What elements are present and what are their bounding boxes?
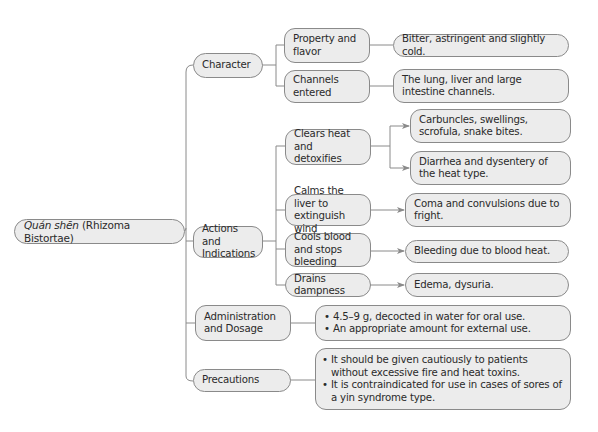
- action-clears-heat: Clears heat and detoxifies: [285, 129, 371, 165]
- branch-precautions: Precautions: [193, 369, 291, 392]
- branch-character-label: Character: [202, 59, 251, 72]
- administration-bullet: 4.5–9 g, decocted in water for oral use.: [324, 311, 531, 324]
- branch-character: Character: [193, 53, 263, 78]
- character-channels-node: Channels entered: [284, 70, 370, 103]
- property-label: Property and flavor: [293, 33, 361, 58]
- precautions-bullet: It is contraindicated for use in cases o…: [322, 379, 564, 404]
- clears-heat-label: Clears heat and detoxifies: [294, 128, 362, 166]
- precautions-bullet-list: It should be given cautiously to patient…: [322, 354, 564, 404]
- character-property-detail: Bitter, astringent and slightly cold.: [393, 34, 569, 57]
- branch-administration: Administration and Dosage: [195, 305, 291, 341]
- action-calms-liver: Calms the liver to extinguish wind: [285, 194, 371, 226]
- edema-text: Edema, dysuria.: [414, 279, 494, 292]
- indication-coma: Coma and convulsions due to fright.: [405, 193, 571, 227]
- root-node: Quán shēn (Rhizoma Bistortae): [14, 219, 185, 244]
- administration-bullet: An appropriate amount for external use.: [324, 323, 531, 336]
- cools-blood-label: Cools blood and stops bleeding: [294, 231, 362, 269]
- coma-text: Coma and convulsions due to fright.: [414, 198, 562, 223]
- diarrhea-text: Diarrhea and dysentery of the heat type.: [419, 156, 562, 181]
- calms-liver-label: Calms the liver to extinguish wind: [294, 185, 362, 235]
- precautions-detail: It should be given cautiously to patient…: [315, 348, 571, 410]
- indication-diarrhea: Diarrhea and dysentery of the heat type.: [410, 151, 571, 185]
- property-detail-text: Bitter, astringent and slightly cold.: [402, 33, 560, 58]
- branch-actions: Actions and Indications: [193, 226, 263, 258]
- precautions-bullet: It should be given cautiously to patient…: [322, 354, 564, 379]
- carbuncles-text: Carbuncles, swellings, scrofula, snake b…: [419, 114, 562, 139]
- branch-precautions-label: Precautions: [202, 374, 259, 387]
- action-drains-dampness: Drains dampness: [285, 273, 371, 297]
- indication-carbuncles: Carbuncles, swellings, scrofula, snake b…: [410, 109, 571, 143]
- administration-bullet-list: 4.5–9 g, decocted in water for oral use.…: [324, 311, 531, 336]
- indication-edema: Edema, dysuria.: [405, 273, 569, 297]
- action-cools-blood: Cools blood and stops bleeding: [285, 233, 371, 267]
- root-title-italic: Quán shēn: [24, 219, 79, 231]
- drains-dampness-label: Drains dampness: [294, 273, 362, 298]
- character-channels-detail: The lung, liver and large intestine chan…: [393, 69, 569, 103]
- channels-detail-text: The lung, liver and large intestine chan…: [402, 74, 560, 99]
- bleeding-text: Bleeding due to blood heat.: [414, 245, 550, 258]
- channels-label: Channels entered: [293, 74, 361, 99]
- branch-administration-label: Administration and Dosage: [204, 311, 282, 336]
- mind-map-diagram: Quán shēn (Rhizoma Bistortae) Character …: [0, 0, 598, 432]
- administration-detail: 4.5–9 g, decocted in water for oral use.…: [315, 305, 571, 341]
- branch-actions-label: Actions and Indications: [202, 223, 255, 261]
- indication-bleeding: Bleeding due to blood heat.: [405, 240, 569, 263]
- character-property-node: Property and flavor: [284, 28, 370, 63]
